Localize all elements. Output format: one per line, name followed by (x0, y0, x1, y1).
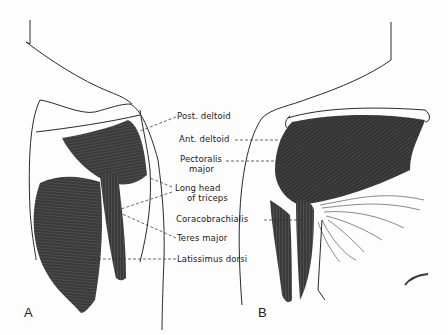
latissimus-dorsi-muscle (34, 177, 102, 313)
label-latissimus-dorsi: Latissimus dorsi (177, 255, 247, 264)
label-post-deltoid: Post. deltoid (177, 112, 231, 121)
label-pectoralis-line2: major (189, 165, 214, 174)
hair-mark (405, 274, 428, 285)
muscle-illustration (0, 0, 448, 335)
label-triceps-line1: Long head (175, 184, 220, 193)
label-teres-major: Teres major (177, 234, 227, 243)
label-ant-deltoid: Ant. deltoid (179, 135, 229, 144)
panel-label-b: B (258, 305, 267, 320)
anatomy-figure: Post. deltoid Ant. deltoid Pectoralis ma… (0, 0, 448, 335)
pectoral-fibers-fan (318, 196, 424, 262)
biceps-muscle (296, 200, 314, 300)
label-coracobrachialis: Coracobrachialis (176, 215, 248, 224)
teres-triceps-muscle (100, 173, 126, 280)
coracobrachialis-muscle (270, 200, 292, 302)
arm-contour (318, 220, 325, 300)
deltoid-pectoralis-muscle (275, 115, 425, 205)
label-pectoralis-line1: Pectoralis (180, 155, 222, 164)
panel-label-a: A (24, 305, 33, 320)
label-triceps-line2: of triceps (187, 194, 228, 203)
